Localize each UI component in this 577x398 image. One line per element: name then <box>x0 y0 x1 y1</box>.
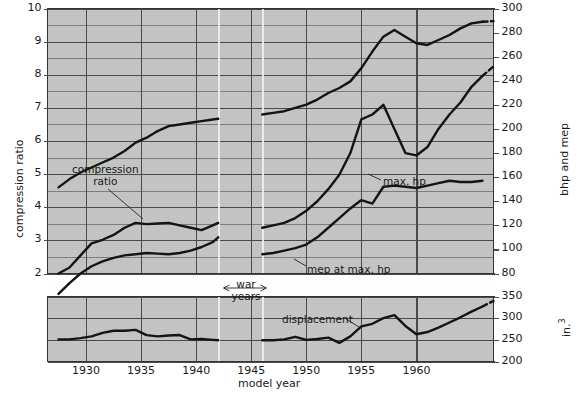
series-line-compression-ratio <box>59 131 158 187</box>
leader-mep-at-max-hp <box>294 259 306 266</box>
series-line-compression-ratio <box>158 119 219 131</box>
leader-displacement <box>346 319 359 327</box>
series-line-displacement <box>482 301 493 307</box>
series-line-displacement <box>59 330 219 340</box>
series-line-compression-ratio <box>482 21 493 22</box>
leader-compression-ratio <box>108 189 143 219</box>
curves-layer <box>0 0 577 398</box>
series-line-mep-at-max-hp <box>59 237 219 294</box>
series-line-max-hp <box>262 76 482 228</box>
leader-max-hp <box>368 174 381 180</box>
war-years-arrow <box>224 285 267 291</box>
engine-trends-figure: 1098765432 30028026024022020018016014012… <box>0 0 577 398</box>
series-line-max-hp <box>482 66 493 76</box>
series-line-compression-ratio <box>262 22 482 115</box>
series-line-displacement <box>262 306 482 342</box>
